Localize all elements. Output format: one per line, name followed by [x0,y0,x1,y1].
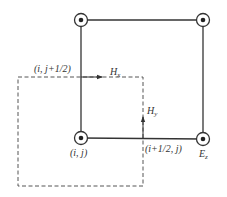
label-i-j-half: (i, j+1/2) [34,63,71,75]
primary-cell [81,20,203,139]
label-hy: Hy [146,105,158,118]
label-ez: Ez [198,148,208,161]
ez-node-top-right [197,14,210,27]
label-i-half-j: (i+1/2, j) [145,143,182,155]
ez-node-bottom-left [75,132,88,145]
label-i-j: (i, j) [70,147,88,159]
ez-node-top-left [75,14,88,27]
ez-node-bottom-right [197,133,210,146]
yee-cell-diagram: (i, j+1/2) Hx Hy (i, j) (i+1/2, j) Ez [0,0,227,197]
